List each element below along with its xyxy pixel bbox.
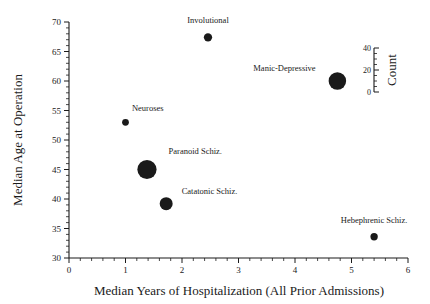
data-point-label: Neuroses bbox=[132, 103, 164, 113]
y-tick-label: 60 bbox=[52, 76, 62, 86]
x-tick-label: 1 bbox=[123, 265, 128, 275]
x-tick-label: 6 bbox=[406, 265, 411, 275]
data-point-marker bbox=[160, 197, 173, 210]
data-point-label: Manic-Depressive bbox=[253, 63, 316, 73]
data-point-marker bbox=[370, 233, 377, 240]
y-tick-label: 50 bbox=[52, 135, 62, 145]
y-tick-label: 45 bbox=[52, 165, 62, 175]
y-tick-label: 40 bbox=[52, 194, 62, 204]
data-point-marker bbox=[137, 160, 156, 179]
y-axis: 303540455055606570 bbox=[52, 17, 69, 263]
data-point-marker bbox=[204, 33, 212, 41]
y-tick-label: 30 bbox=[52, 253, 62, 263]
count-size-legend: 02040Count bbox=[363, 44, 399, 97]
x-tick-label: 4 bbox=[293, 265, 298, 275]
x-tick-label: 0 bbox=[67, 265, 72, 275]
data-point-label: Hebephrenic Schiz. bbox=[341, 215, 408, 225]
x-axis: 0123456 bbox=[67, 258, 411, 275]
data-point-marker bbox=[329, 72, 347, 90]
y-axis-title: Median Age at Operation bbox=[10, 74, 25, 206]
y-tick-label: 55 bbox=[52, 106, 62, 116]
x-tick-label: 3 bbox=[236, 265, 241, 275]
data-point-label: Catatonic Schiz. bbox=[182, 186, 238, 196]
count-legend-title: Count bbox=[384, 54, 399, 86]
x-tick-label: 2 bbox=[180, 265, 185, 275]
count-tick-label: 0 bbox=[367, 88, 371, 97]
x-axis-title: Median Years of Hospitalization (All Pri… bbox=[94, 283, 384, 298]
data-point-label: Involutional bbox=[187, 15, 229, 25]
data-point-label: Paranoid Schiz. bbox=[169, 146, 222, 156]
x-tick-label: 5 bbox=[349, 265, 354, 275]
count-tick-label: 20 bbox=[363, 66, 371, 75]
y-tick-label: 70 bbox=[52, 17, 62, 27]
data-point-marker bbox=[122, 119, 129, 126]
count-tick-label: 40 bbox=[363, 44, 371, 53]
scatter-plot: 303540455055606570 0123456 InvolutionalM… bbox=[0, 0, 430, 304]
y-tick-label: 35 bbox=[52, 224, 62, 234]
y-tick-label: 65 bbox=[52, 47, 62, 57]
